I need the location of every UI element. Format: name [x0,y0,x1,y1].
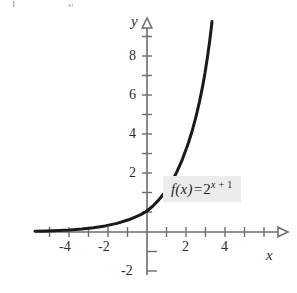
function-label-exponent-variable: x [211,179,216,190]
y-tick-label-8: 8 [129,49,136,63]
y-axis-arrowhead [142,18,152,28]
x-axis-label: x [266,248,273,263]
plot-canvas [0,0,297,293]
x-tick-label-neg2: -2 [98,240,110,254]
function-graph-figure: l y [0,0,297,293]
y-axis-ticks [142,37,157,272]
y-tick-label-4: 4 [129,127,136,141]
x-tick-label-4: 4 [221,240,228,254]
x-tick-label-neg4: -4 [59,240,71,254]
function-label-exponent: x + 1 [211,179,233,190]
x-axis-arrowhead [278,227,288,237]
function-label-prefix: f(x) [171,181,193,197]
function-equation-label: f(x)=2x + 1 [163,176,241,202]
y-tick-label-2: 2 [129,166,136,180]
function-label-base: 2 [203,181,211,197]
y-tick-label-6: 6 [129,88,136,102]
x-tick-label-2: 2 [182,240,189,254]
y-axis-group [142,18,157,275]
function-label-equals: = [193,181,204,197]
y-axis-label: y [131,14,138,29]
function-label-exponent-operator: + 1 [219,179,233,190]
y-tick-label-neg2: -2 [121,264,133,278]
